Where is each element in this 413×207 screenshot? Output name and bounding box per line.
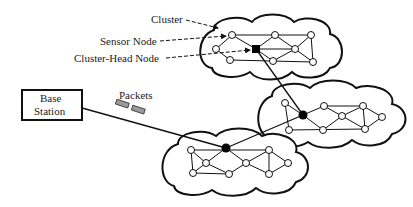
packets (115, 99, 145, 114)
base-station-label-1: Base (40, 92, 61, 104)
base-station-label-2: Station (34, 105, 65, 117)
sensor-node-label: Sensor Node (100, 35, 157, 47)
cluster-label: Cluster (151, 13, 183, 25)
cluster-head-node-label: Cluster-Head Node (74, 52, 159, 64)
wsn-diagram (0, 0, 413, 207)
packets-label: Packets (119, 89, 153, 101)
